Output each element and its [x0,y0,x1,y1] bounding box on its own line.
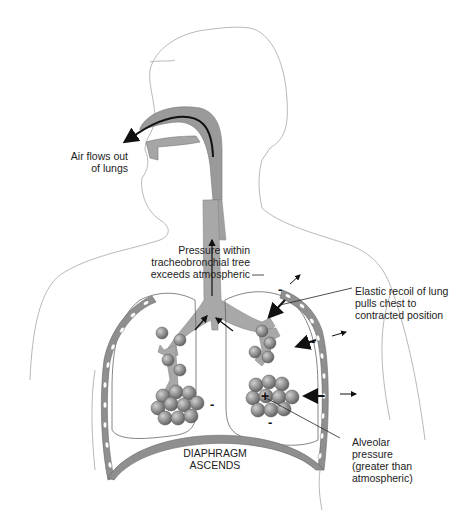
label-line: ASCENDS [170,459,260,471]
label-elastic-recoil: Elastic recoil of lung pulls chest to co… [355,285,474,321]
label-line: contracted position [355,309,474,321]
label-diaphragm-ascends: DIAPHRAGM ASCENDS [170,447,260,471]
label-line: Alveolar [352,436,462,448]
label-pressure-tracheobronchial: Pressure within tracheobronchial tree ex… [60,244,250,280]
label-line: pressure [352,448,462,460]
label-line: Elastic recoil of lung [355,285,474,297]
minus-sign: - [278,283,282,296]
label-line: (greater than [352,460,462,472]
label-line: exceeds atmospheric [60,268,250,280]
minus-sign: - [268,416,272,429]
right-alveoli [246,325,299,417]
recoil-arrow-1 [270,300,285,316]
label-line: pulls chest to [355,297,474,309]
label-line: Pressure within [60,244,250,256]
outward-arrow-2 [332,332,346,336]
label-line: DIAPHRAGM [170,447,260,459]
label-line: of lungs [54,162,128,174]
respiration-diagram: - - - - - + Air flows out of lungs Press… [0,0,474,521]
plus-sign: + [261,390,269,403]
right-rib-holes [285,293,326,459]
minus-sign: - [311,335,315,348]
label-air-flows-out: Air flows out of lungs [54,150,128,174]
label-alveolar-pressure: Alveolar pressure (greater than atmosphe… [352,436,462,484]
outward-arrow-1 [290,275,300,284]
minus-sign: - [321,389,325,402]
label-line: tracheobronchial tree [60,256,250,268]
label-line: Air flows out [54,150,128,162]
label-line: atmospheric) [352,472,462,484]
minus-sign: - [210,398,214,411]
